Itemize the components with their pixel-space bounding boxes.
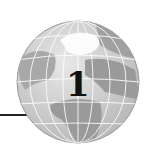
chapter-number: 1 [66, 66, 88, 102]
